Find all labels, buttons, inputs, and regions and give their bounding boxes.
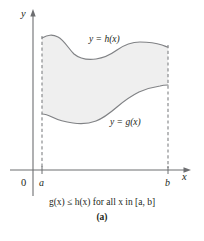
figure-container: y x 0 a b y = h(x) y = g(x) g(x) ≤ h(x) … <box>0 0 204 241</box>
subfigure-label: (a) <box>0 211 204 224</box>
lower-curve-label: y = g(x) <box>109 117 141 128</box>
figure-caption-text: g(x) ≤ h(x) for all x in [a, b] <box>0 196 204 209</box>
upper-curve-label: y = h(x) <box>88 34 120 45</box>
y-axis-arrow-icon <box>30 9 35 17</box>
origin-label: 0 <box>21 177 26 188</box>
shaded-region-between-curves <box>42 35 168 123</box>
x-axis-label: x <box>181 171 187 182</box>
figure-caption-block: g(x) ≤ h(x) for all x in [a, b] (a) <box>0 196 204 224</box>
x-tick-label-a: a <box>39 177 44 188</box>
y-axis-label: y <box>20 8 26 19</box>
x-tick-label-b: b <box>165 177 170 188</box>
